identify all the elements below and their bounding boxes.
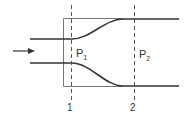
- inlet-lower-wall: [30, 63, 179, 86]
- pressure-2-label: P2: [139, 48, 150, 62]
- arrow-right-icon: [13, 48, 35, 54]
- pressure-1-label: P1: [76, 47, 87, 61]
- section-1-label: 1: [67, 102, 73, 113]
- inlet-upper-wall: [30, 19, 179, 39]
- diverging-duct-diagram: P1 P2 1 2: [0, 0, 189, 122]
- section-2-label: 2: [130, 102, 136, 113]
